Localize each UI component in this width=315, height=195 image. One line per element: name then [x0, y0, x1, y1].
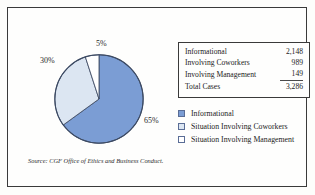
legend-label: Informational — [191, 109, 234, 118]
pie-chart — [52, 52, 146, 146]
table-row: Informational 2,148 — [185, 46, 303, 57]
row-label: Involving Management — [185, 69, 280, 81]
table-row: Involving Management 149 — [185, 69, 303, 81]
chart-legend: Informational Situation Involving Cowork… — [178, 107, 294, 146]
pie-svg — [52, 52, 146, 146]
legend-item-informational: Informational — [178, 107, 294, 119]
pie-label-informational: 65% — [144, 116, 159, 125]
legend-label: Situation Involving Coworkers — [191, 122, 288, 131]
legend-label: Situation Involving Management — [191, 135, 294, 144]
total-value: 3,286 — [280, 81, 303, 93]
figure-container: 65% 30% 5% Informational 2,148 Involving… — [0, 0, 315, 195]
legend-swatch-icon — [178, 123, 185, 130]
row-value: 149 — [280, 69, 303, 81]
row-value: 989 — [280, 57, 303, 68]
pie-label-management: 5% — [96, 39, 107, 48]
table-row: Involving Coworkers 989 — [185, 57, 303, 68]
legend-item-coworkers: Situation Involving Coworkers — [178, 120, 294, 132]
table-row-total: Total Cases 3,286 — [185, 81, 303, 93]
row-value: 2,148 — [280, 46, 303, 57]
total-label: Total Cases — [185, 81, 280, 93]
source-note: Source: CGF Office of Ethics and Busines… — [28, 157, 163, 164]
figure-frame: 65% 30% 5% Informational 2,148 Involving… — [7, 7, 307, 187]
legend-item-management: Situation Involving Management — [178, 133, 294, 145]
row-label: Informational — [185, 46, 280, 57]
pie-label-coworkers: 30% — [40, 56, 55, 65]
legend-swatch-icon — [178, 136, 185, 143]
case-counts-table: Informational 2,148 Involving Coworkers … — [178, 42, 310, 98]
row-label: Involving Coworkers — [185, 57, 280, 68]
legend-swatch-icon — [178, 110, 185, 117]
